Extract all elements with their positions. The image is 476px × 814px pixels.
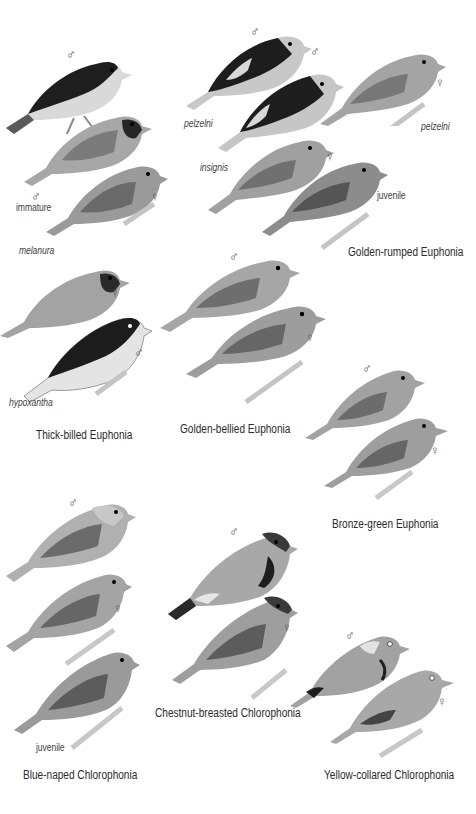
species-name: Golden-rumped Euphonia (348, 245, 463, 259)
bird-illustration-golden-rumped-female-pelzelni (320, 42, 446, 126)
bird-illustration-blue-naped-juvenile (14, 644, 140, 750)
female-symbol: ♀ (150, 190, 160, 203)
label-juvenile: juvenile (36, 742, 64, 753)
male-symbol: ♂ (310, 45, 320, 58)
species-name: Chestnut-breasted Chlorophonia (155, 706, 301, 720)
bird-illustration-golden-rumped-juvenile (262, 150, 388, 250)
female-symbol: ♀ (437, 695, 447, 708)
bird-illustration-thick-billed-male-hypoxantha (24, 306, 152, 406)
species-name: Yellow-collared Chlorophonia (324, 768, 454, 782)
label-pelzelni-female: pelzelni (421, 121, 449, 132)
species-name: Thick-billed Euphonia (36, 428, 132, 442)
label-hypoxantha: hypoxantha (9, 397, 53, 408)
species-name: Golden-bellied Euphonia (180, 422, 290, 436)
label-juvenile: juvenile (377, 190, 405, 201)
bird-illustration-yellow-collared-female (330, 658, 454, 758)
label-melanura: melanura (19, 245, 54, 256)
species-name: Bronze-green Euphonia (332, 517, 438, 531)
female-symbol: ♀ (113, 602, 123, 615)
male-symbol: ♂ (134, 346, 144, 359)
label-immature: immature (16, 202, 51, 213)
female-symbol: ♀ (435, 76, 445, 89)
bird-illustration-chestnut-breasted-female (172, 590, 298, 700)
species-name: Blue-naped Chlorophonia (23, 768, 137, 782)
female-symbol: ♀ (110, 286, 120, 299)
female-symbol: ♀ (430, 444, 440, 457)
female-symbol: ♀ (305, 331, 315, 344)
